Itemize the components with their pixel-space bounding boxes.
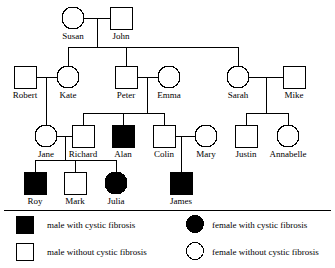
person-symbol-colin	[153, 125, 175, 147]
person-symbol-mary	[195, 125, 217, 147]
person-symbol-justin	[235, 125, 257, 147]
person-symbol-sarah	[227, 66, 249, 88]
legend-label-female-unaffected: female without cystic fibrosis	[212, 247, 319, 257]
person-label-sarah: Sarah	[208, 90, 268, 100]
person-symbol-annabelle	[277, 125, 299, 147]
person-symbol-mike	[283, 66, 305, 88]
person-label-kate: Kate	[38, 90, 98, 100]
person-label-james: James	[151, 196, 211, 206]
person-symbol-alan	[112, 125, 134, 147]
person-label-john: John	[91, 31, 151, 41]
person-symbol-peter	[115, 66, 137, 88]
legend-label-male-unaffected: male without cystic fibrosis	[47, 247, 147, 257]
person-symbol-john	[110, 7, 132, 29]
legend-swatch-female-unaffected	[187, 243, 204, 260]
legend-label-male-affected: male with cystic fibrosis	[47, 220, 135, 230]
person-symbol-susan	[62, 7, 84, 29]
person-symbol-kate	[57, 66, 79, 88]
person-symbol-julia	[105, 172, 127, 194]
pedigree-chart: Susan John Robert Kate Peter Emma Sarah …	[0, 0, 335, 268]
person-symbol-jane	[35, 125, 57, 147]
person-label-emma: Emma	[139, 90, 199, 100]
person-label-julia: Julia	[86, 196, 146, 206]
person-symbol-james	[170, 172, 192, 194]
legend-label-female-affected: female with cystic fibrosis	[212, 220, 307, 230]
person-label-annabelle: Annabelle	[258, 149, 318, 159]
person-symbol-emma	[158, 66, 180, 88]
legend-swatch-female-affected	[187, 216, 204, 233]
legend-swatch-male-affected	[16, 216, 33, 233]
legend-swatch-male-unaffected	[16, 243, 33, 260]
person-symbol-roy	[24, 172, 46, 194]
person-label-mike: Mike	[264, 90, 324, 100]
person-symbol-robert	[14, 66, 36, 88]
person-symbol-mark	[64, 172, 86, 194]
person-symbol-richard	[72, 125, 94, 147]
